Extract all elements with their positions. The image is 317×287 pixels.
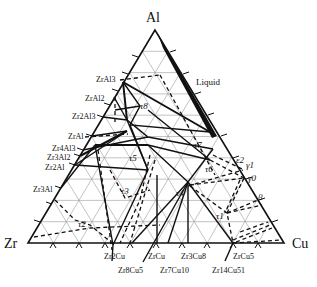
bottom-edge-phase-labels: Zr2Cu Zr8Cu5 ZrCu Zr7Cu10 Zr3Cu8 Zr14Cu5…	[104, 252, 254, 275]
phase-label-tau6: τ6	[205, 164, 213, 174]
phase-label-tau1: τ1	[216, 211, 224, 221]
phase-label-tau3: τ3	[121, 186, 129, 196]
phase-label-zr3cu8: Zr3Cu8	[181, 252, 206, 261]
phase-label-zr2cu: Zr2Cu	[104, 252, 125, 261]
ternary-phase-diagram: Al Zr Cu Liquid ZrAl3 ZrAl2 Zr2Al3 ZrAl …	[0, 0, 317, 287]
vertex-label-cu: Cu	[292, 236, 308, 251]
phase-label-tau8: τ8	[140, 101, 148, 111]
liquid-label: Liquid	[196, 77, 220, 87]
phase-label-zrcu: ZrCu	[148, 252, 165, 261]
phase-label-zral2: ZrAl2	[85, 94, 105, 103]
phase-label-tau5: τ5	[129, 153, 137, 163]
vertex-label-al: Al	[146, 10, 160, 25]
phase-label-zr4al3: Zr4Al3	[52, 144, 76, 153]
phase-label-tau4: τ4	[176, 188, 184, 198]
vertex-label-zr: Zr	[4, 236, 18, 251]
phase-label-beta: β	[257, 192, 263, 202]
phase-label-eps2: ε2	[236, 155, 245, 165]
phase-label-zr14cu51: Zr14Cu51	[212, 266, 245, 275]
phase-label-zr8cu5: Zr8Cu5	[118, 266, 143, 275]
phase-label-gamma0: γ0	[248, 173, 257, 183]
phase-label-zr3al: Zr3Al	[33, 185, 53, 194]
phase-label-gamma1: γ1	[246, 160, 254, 170]
phase-label-zral3: ZrAl3	[96, 75, 116, 84]
phase-label-zral: ZrAl	[68, 132, 84, 141]
phase-label-zr7cu10: Zr7Cu10	[160, 266, 189, 275]
phase-label-zrcu5: ZrCu5	[233, 252, 254, 261]
phase-label-zr2al: Zr2Al	[45, 163, 65, 172]
phase-label-zr2al3: Zr2Al3	[72, 112, 96, 121]
phase-label-zr3al2: Zr3Al2	[47, 153, 71, 162]
phase-label-tau7: τ7	[194, 140, 202, 150]
phase-label-tau2: τ2	[78, 219, 86, 229]
